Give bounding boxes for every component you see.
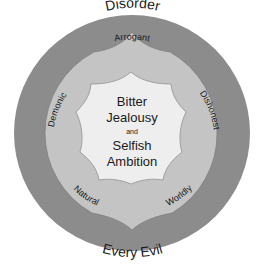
center-line-3: and [126,128,138,135]
outer-label-top: Disorder [104,0,162,14]
center-line-1: Bitter [117,94,148,109]
center-line-5: Ambition [107,154,158,169]
center-line-2: Jealousy [106,110,158,125]
concentric-diagram: Disorder Every Evil Arrogant Dishonest D… [0,0,265,265]
center-line-4: Selfish [112,138,151,153]
